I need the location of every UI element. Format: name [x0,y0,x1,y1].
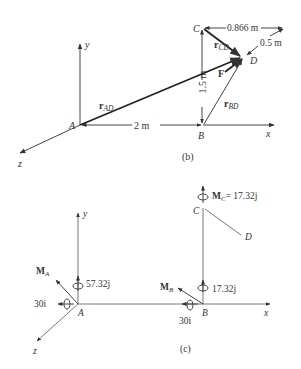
y-axis-label: y [84,39,90,50]
moment-B-j-value: 17.32j [212,284,236,294]
moment-j-icon-B [198,280,208,292]
moment-j-icon-A [73,276,83,291]
dim-2m-label: 2 m [134,120,150,131]
F-label: F [218,68,224,79]
z-axis-c-label: z [32,346,37,356]
dim-0866-label: 0.866 m [227,23,259,33]
z-axis-label: z [17,158,22,169]
point-C-label: C [193,23,200,34]
r-BD-label: rBD [224,98,239,111]
M-A-label: MA [36,266,50,278]
moment-B-i-value: 30i [179,316,192,326]
point-D-c-label: D [244,232,252,242]
point-A-c-label: A [77,308,84,318]
caption-c: (c) [180,344,191,355]
moment-i-icon-A [58,299,74,309]
r-CD-label: rCD [214,39,229,52]
point-B-c-label: B [202,308,208,318]
dim-05m-label: 0.5 m [260,38,282,48]
x-axis-c-label: x [263,308,269,318]
moment-j-icon-C [198,186,208,203]
M-B-label: MB [160,282,174,294]
moment-A-j-value: 57.32j [86,279,110,289]
r-AD-label: rAD [99,100,114,113]
dim-05m-arrow-top [270,29,283,36]
member-CD [205,209,241,235]
dim-05m-arrow-bottom [247,46,258,55]
point-D-label: D [249,55,258,66]
x-axis-label: x [265,128,271,139]
vector-r-AD [80,58,240,125]
moment-A-i-value: 30i [34,299,47,309]
point-C-c-label: C [193,206,200,216]
z-axis-c [37,304,78,341]
statics-diagram: y z x 2 m 1.5 m 0.866 m 0.5 m rAD rCD rB… [0,0,301,369]
figure-c: y z x MA 57.32j 30i A MB 17.32j [32,186,270,356]
caption-b: (b) [182,151,194,163]
point-B-label: B [198,130,204,141]
point-A-label: A [68,120,76,131]
figure-b: y z x 2 m 1.5 m 0.866 m 0.5 m rAD rCD rB… [17,23,283,169]
moment-i-icon-B [182,300,198,310]
M-C-label: MC= 17.32j [212,191,257,203]
y-axis-c-label: y [82,209,88,219]
